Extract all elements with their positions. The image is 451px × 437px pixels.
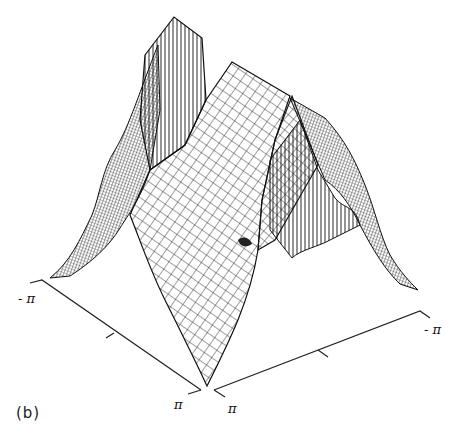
x-axis-min-label: - π	[18, 292, 35, 305]
panel-label: (b)	[16, 404, 40, 422]
surface-plot	[0, 0, 451, 437]
y-axis-min-label: π	[228, 402, 237, 415]
x-axis-max-label: π	[174, 398, 183, 411]
y-axis-max-label: - π	[424, 323, 441, 336]
y-axis	[214, 311, 430, 397]
